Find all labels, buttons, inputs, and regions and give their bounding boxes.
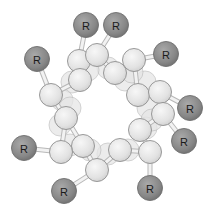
r-group: R	[104, 13, 129, 38]
r-group-label: R	[180, 136, 188, 148]
r-group: R	[52, 179, 77, 204]
r-group-label: R	[112, 20, 120, 32]
backbone-atom	[86, 44, 109, 67]
backbone-atom	[86, 159, 109, 182]
backbone-atom	[55, 107, 78, 130]
backbone-atom	[50, 141, 73, 164]
r-group: R	[154, 42, 179, 67]
backbone-atom	[104, 62, 127, 85]
backbone-atom	[69, 69, 92, 92]
caption-strip	[0, 216, 215, 220]
r-group: R	[74, 13, 99, 38]
backbone-atom	[40, 84, 63, 107]
alpha-helix-diagram: RRRRRRRRR	[0, 0, 215, 220]
r-group: R	[178, 96, 203, 121]
r-group: R	[138, 176, 163, 201]
backbone-atom	[149, 81, 172, 104]
r-group-label: R	[60, 186, 68, 198]
backbone-atom	[139, 141, 162, 164]
backbone-atom	[109, 139, 132, 162]
r-group-label: R	[82, 20, 90, 32]
r-group-label: R	[186, 103, 194, 115]
molecule-svg: RRRRRRRRR	[0, 0, 215, 220]
r-group-label: R	[146, 183, 154, 195]
backbone-atom	[123, 49, 146, 72]
backbone-atom	[152, 103, 175, 126]
r-group: R	[172, 129, 197, 154]
backbone-atom	[127, 84, 150, 107]
r-group-label: R	[33, 54, 41, 66]
backbone-atom	[129, 119, 152, 142]
r-group: R	[12, 136, 37, 161]
r-group: R	[25, 47, 50, 72]
r-group-label: R	[20, 143, 28, 155]
backbone-atom	[72, 135, 95, 158]
r-group-label: R	[162, 49, 170, 61]
